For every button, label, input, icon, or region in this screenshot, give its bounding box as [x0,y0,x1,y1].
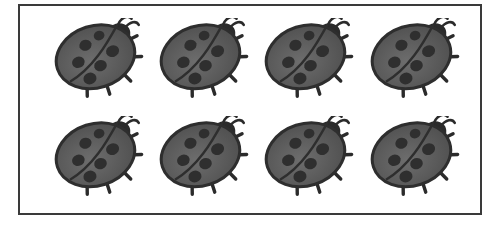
ladybug-4 [368,18,468,106]
ladybug-7 [262,116,362,204]
screenshot-canvas [0,0,501,226]
ladybug-illustration [368,116,468,204]
ladybug-5 [52,116,152,204]
picture-frame [18,4,482,215]
ladybug-1 [52,18,152,106]
ladybug-illustration [157,116,257,204]
ladybug-illustration [262,116,362,204]
ladybug-illustration [368,18,468,106]
ladybug-8 [368,116,468,204]
ladybug-2 [157,18,257,106]
ladybug-6 [157,116,257,204]
ladybug-illustration [262,18,362,106]
ladybug-illustration [52,116,152,204]
ladybug-3 [262,18,362,106]
ladybug-illustration [52,18,152,106]
ladybug-illustration [157,18,257,106]
ladybug-grid [20,6,480,213]
